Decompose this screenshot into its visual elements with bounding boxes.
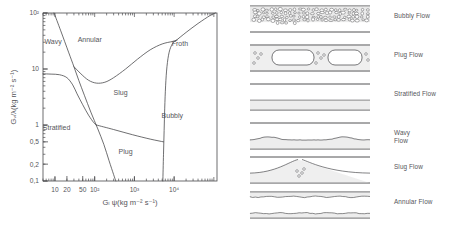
region-label-plug: Plug <box>119 148 133 156</box>
bubble <box>262 12 264 14</box>
bubble <box>344 16 346 18</box>
stratified-liquid-fill <box>250 100 370 110</box>
x-axis-ticks <box>43 13 214 181</box>
flow-label-plug: Plug Flow <box>394 51 423 59</box>
bubble <box>266 12 269 14</box>
bubble <box>338 9 341 12</box>
bubble <box>293 8 296 11</box>
bubble <box>355 15 359 19</box>
bubble <box>351 19 355 22</box>
bubble <box>280 11 283 13</box>
tube-illustrations <box>250 6 370 218</box>
bubble <box>316 18 318 20</box>
bubble <box>260 53 263 56</box>
bubble <box>261 18 264 21</box>
x-tick-label-3: 10² <box>90 186 100 193</box>
bubble <box>366 13 369 15</box>
entrained-bubble <box>296 170 299 173</box>
region-label-wavy: Wavy <box>45 38 63 46</box>
bubble <box>275 8 277 11</box>
plug-slug-boundary <box>96 125 163 142</box>
bubble <box>266 18 270 21</box>
bubble <box>307 8 310 10</box>
bubble <box>343 8 347 10</box>
y-tick-label-1: 0,2 <box>30 161 39 168</box>
bubble <box>355 12 359 14</box>
bubble <box>337 15 340 18</box>
bubble <box>360 16 363 18</box>
tube-slug <box>250 157 370 183</box>
bubble <box>365 19 369 22</box>
bubble <box>352 12 354 15</box>
froth-upper-boundary <box>176 13 216 41</box>
entrained-bubble <box>303 168 306 171</box>
flow-label-slug: Slug Flow <box>394 163 423 171</box>
bubble <box>289 20 292 22</box>
bubble <box>324 19 328 22</box>
bubble <box>320 11 324 13</box>
bubble <box>355 9 357 11</box>
bubble <box>280 15 284 17</box>
bubble <box>317 12 321 14</box>
bubble <box>292 19 296 21</box>
flow-regime-chart: 10205010²10³10⁴ 0,10,20,511010² WavyAnnu… <box>0 0 232 228</box>
bubble <box>294 12 297 14</box>
wavy-liquid-fill <box>250 137 370 149</box>
bubble <box>365 53 368 56</box>
bubble <box>288 12 290 15</box>
bubble <box>334 9 337 12</box>
bubble <box>297 19 300 21</box>
bubble <box>279 18 282 20</box>
bubble <box>265 9 269 11</box>
bubble <box>341 18 345 20</box>
bubble <box>362 19 365 21</box>
flow-label-stratified: Stratified Flow <box>394 90 436 98</box>
flow-label-annular: Annular Flow <box>394 198 433 206</box>
bubble <box>257 19 261 22</box>
bubble <box>257 12 261 16</box>
region-label-bubbly: Bubbly <box>162 112 184 120</box>
diagram-canvas <box>232 0 450 228</box>
x-tick-label-0: 10 <box>51 186 59 193</box>
x-tick-label-2: 50 <box>79 186 87 193</box>
tube-wavy <box>250 123 370 149</box>
tube-stratified <box>250 84 370 110</box>
bubble <box>329 20 333 22</box>
regime-boundary-curves <box>43 13 215 181</box>
bubble <box>323 54 326 57</box>
bubble <box>337 19 341 22</box>
bubble <box>361 12 364 15</box>
region-label-annular: Annular <box>78 36 103 43</box>
plot-frame <box>43 13 217 181</box>
bubble <box>310 13 314 15</box>
slug-liquid-fill <box>250 160 370 184</box>
bubble <box>286 16 289 18</box>
y-tick-label-2: 0,5 <box>30 138 39 145</box>
bubble <box>283 18 285 21</box>
x-tick-label-4: 10³ <box>130 186 140 193</box>
chart-canvas: 10205010²10³10⁴ 0,10,20,511010² WavyAnnu… <box>0 0 232 228</box>
tube-bubbly <box>250 6 370 32</box>
bubble <box>253 11 257 14</box>
x-tick-label-5: 10⁴ <box>169 186 179 193</box>
bubble <box>307 19 309 22</box>
bubble <box>312 9 314 12</box>
bubble <box>306 15 309 19</box>
tube-plug <box>250 45 370 71</box>
tube-annular <box>250 192 370 218</box>
entrained-bubble <box>301 172 304 175</box>
bubble <box>271 12 274 14</box>
bubble <box>348 12 350 14</box>
bubble <box>284 12 287 15</box>
region-label-froth: Froth <box>172 40 188 47</box>
elongated-plug-bubble-0 <box>272 50 314 65</box>
bubble <box>254 52 257 55</box>
bubble <box>329 16 332 18</box>
bubble <box>289 15 292 18</box>
bubble <box>276 11 278 14</box>
bubble <box>283 9 287 12</box>
bubble <box>256 9 259 11</box>
bubble <box>324 8 327 11</box>
bubble <box>353 8 356 11</box>
bubble <box>352 16 355 19</box>
